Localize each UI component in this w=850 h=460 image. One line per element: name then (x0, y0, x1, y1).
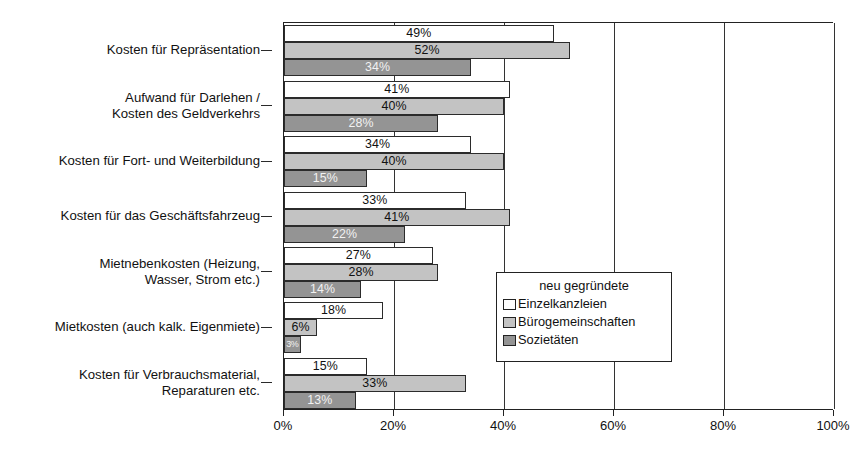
bar-value-label: 33% (362, 192, 387, 209)
category-tick (261, 50, 272, 51)
gridline-100 (834, 23, 835, 409)
x-axis-label: 80% (710, 418, 736, 433)
category-tick (261, 105, 272, 106)
bar-value-label: 27% (346, 247, 371, 264)
bar-value-label: 22% (332, 226, 357, 243)
x-axis-label: 100% (816, 418, 849, 433)
category-tick (261, 382, 272, 383)
legend-item-3: Sozietäten (503, 331, 665, 349)
bar-value-label: 49% (406, 25, 431, 42)
legend-swatch-icon (503, 317, 516, 328)
bar-value-label: 28% (349, 115, 374, 132)
legend-items: EinzelkanzleienBürogemeinschaftenSozietä… (503, 295, 665, 349)
x-axis-tick (393, 410, 394, 416)
bar-value-label: 13% (307, 392, 332, 409)
category-tick (261, 327, 272, 328)
bar-value-label: 52% (415, 42, 440, 59)
x-axis-label: 60% (600, 418, 626, 433)
category-tick (261, 271, 272, 272)
x-axis-tick (723, 410, 724, 416)
category-label: Kosten für das Geschäftsfahrzeug (61, 208, 260, 224)
legend-swatch-icon (503, 299, 516, 310)
category-label: Mietnebenkosten (Heizung, Wasser, Strom … (99, 256, 260, 287)
bar-value-label: 3% (286, 336, 298, 353)
category-label: Kosten für Repräsentation (107, 42, 260, 58)
gridline-80 (724, 23, 725, 409)
legend-item-label: Einzelkanzleien (518, 295, 607, 313)
chart-legend: neu gegründete EinzelkanzleienBürogemein… (496, 272, 672, 362)
x-axis-label: 40% (490, 418, 516, 433)
bar-value-label: 6% (292, 319, 310, 336)
category-label: Mietkosten (auch kalk. Eigenmiete) (55, 319, 260, 335)
legend-swatch-icon (503, 335, 516, 346)
bar-value-label: 15% (313, 170, 338, 187)
category-axis: Kosten für RepräsentationAufwand für Dar… (0, 22, 272, 410)
bar-value-label: 40% (382, 98, 407, 115)
bar-chart: Kosten für RepräsentationAufwand für Dar… (0, 0, 850, 460)
bar-value-label: 41% (384, 209, 409, 226)
legend-item-2: Bürogemeinschaften (503, 313, 665, 331)
bar-value-label: 40% (382, 153, 407, 170)
x-axis-tick (283, 410, 284, 416)
x-axis-label: 20% (380, 418, 406, 433)
legend-item-label: Sozietäten (518, 331, 578, 349)
bar-value-label: 18% (321, 302, 346, 319)
bar-value-label: 15% (313, 358, 338, 375)
bar-value-label: 33% (362, 375, 387, 392)
bar-value-label: 34% (365, 136, 390, 153)
category-label: Kosten für Verbrauchsmaterial, Reparatur… (79, 367, 260, 398)
x-axis-label: 0% (274, 418, 293, 433)
x-axis-tick (613, 410, 614, 416)
x-axis-tick (503, 410, 504, 416)
legend-title: neu gegründete (503, 277, 665, 294)
bar-value-label: 14% (310, 281, 335, 298)
bar-value-label: 28% (349, 264, 374, 281)
x-axis-tick (833, 410, 834, 416)
category-tick (261, 216, 272, 217)
category-label: Kosten für Fort- und Weiterbildung (59, 153, 260, 169)
category-label: Aufwand für Darlehen / Kosten des Geldve… (112, 90, 260, 121)
bar-value-label: 34% (365, 59, 390, 76)
legend-item-1: Einzelkanzleien (503, 295, 665, 313)
legend-item-label: Bürogemeinschaften (518, 313, 635, 331)
category-tick (261, 161, 272, 162)
bar-value-label: 41% (384, 81, 409, 98)
